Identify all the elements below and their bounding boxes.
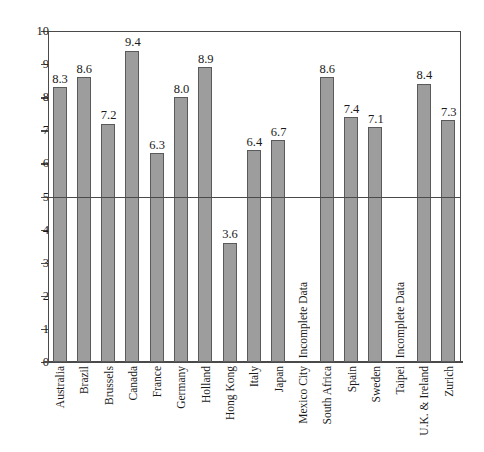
- y-axis-tick-label: 4: [13, 223, 49, 236]
- y-axis-tick-label: 9: [13, 58, 49, 71]
- y-axis-tick-label: 3: [13, 256, 49, 269]
- y-axis-tick-label: 10: [13, 25, 49, 38]
- bar-value-label: 7.3: [433, 106, 465, 119]
- x-axis-label: Canada: [121, 366, 145, 400]
- x-axis-label: Brazil: [72, 366, 96, 394]
- bar-value-label: 9.4: [117, 36, 149, 49]
- x-axis-label: Taipei: [388, 366, 412, 395]
- x-axis-label: Zurich: [437, 366, 461, 397]
- bar-value-label: 8.6: [68, 63, 100, 76]
- x-axis-label: Spain: [340, 366, 364, 392]
- incomplete-data-note: Incomplete Data: [388, 282, 412, 358]
- bar: [417, 84, 431, 362]
- bar: [441, 120, 455, 362]
- x-axis-label: Japan: [267, 366, 291, 392]
- bar: [125, 51, 139, 362]
- y-axis-tick-label: 6: [13, 157, 49, 170]
- bar-value-label: 8.0: [165, 83, 197, 96]
- bar: [344, 117, 358, 362]
- y-axis: 109876543210: [0, 0, 49, 452]
- bar-value-label: 7.2: [93, 109, 125, 122]
- incomplete-data-note: Incomplete Data: [291, 282, 315, 358]
- y-axis-tick-label: 2: [13, 290, 49, 303]
- x-axis-label: France: [145, 366, 169, 397]
- reference-line-5: [48, 197, 461, 198]
- bar-value-label: 8.9: [190, 53, 222, 66]
- bar: [101, 124, 115, 362]
- bar-value-label: 6.3: [141, 139, 173, 152]
- y-axis-tick-label: 5: [13, 190, 49, 203]
- x-axis-label: Sweden: [364, 366, 388, 402]
- y-axis-tick-label: 1: [13, 323, 49, 336]
- bar: [53, 87, 67, 362]
- bar: [223, 243, 237, 362]
- bar: [198, 67, 212, 362]
- x-axis-label: Mexico City: [291, 366, 315, 424]
- y-axis-tick-label: 7: [13, 124, 49, 137]
- bar-value-label: 8.4: [408, 69, 440, 82]
- x-axis-label: Italy: [242, 366, 266, 387]
- bar: [320, 77, 334, 362]
- bar: [174, 97, 188, 362]
- x-axis-label: Australia: [48, 366, 72, 408]
- x-axis-label: Holland: [194, 366, 218, 403]
- x-axis-label: Germany: [169, 366, 193, 409]
- bar-value-label: 6.7: [263, 126, 295, 139]
- x-axis-label: Hong Kong: [218, 366, 242, 420]
- y-axis-tick-label: 8: [13, 91, 49, 104]
- bar-value-label: 3.6: [214, 228, 246, 241]
- x-axis-label: Brussels: [97, 366, 121, 405]
- bar-value-label: 8.6: [311, 63, 343, 76]
- bar-chart: 109876543210 8.38.67.29.46.38.08.93.66.4…: [0, 0, 484, 452]
- bar: [77, 77, 91, 362]
- bar-value-label: 7.1: [360, 113, 392, 126]
- x-axis-label: U.K. & Ireland: [412, 366, 436, 436]
- x-axis-labels: AustraliaBrazilBrusselsCanadaFranceGerma…: [48, 366, 461, 452]
- bar: [271, 140, 285, 362]
- x-axis-label: South Africa: [315, 366, 339, 424]
- bar: [368, 127, 382, 362]
- bar: [150, 153, 164, 362]
- bar: [247, 150, 261, 362]
